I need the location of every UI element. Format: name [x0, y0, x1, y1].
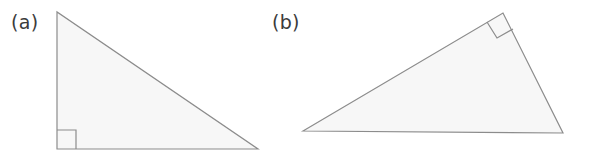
triangle-b — [303, 13, 563, 133]
triangle-b-group — [303, 13, 563, 133]
triangle-a-group — [57, 12, 258, 149]
triangle-a — [57, 12, 258, 149]
figure-container: (a) (b) — [0, 0, 593, 164]
panel-label-b: (b) — [272, 13, 300, 32]
panel-label-a: (a) — [11, 13, 38, 32]
